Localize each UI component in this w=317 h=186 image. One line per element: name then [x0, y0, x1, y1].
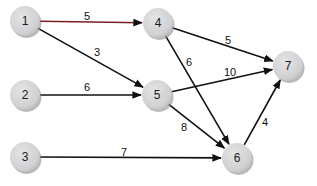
node-1: 1	[10, 6, 42, 38]
edge-6-to-7	[244, 80, 280, 145]
edge-weight-label: 7	[121, 146, 127, 158]
edge-weight-label: 4	[262, 116, 268, 128]
edge-weight-label: 5	[225, 34, 231, 46]
node-label: 4	[155, 16, 162, 30]
edge-3-to-6	[40, 157, 221, 158]
edge-1-to-5	[38, 28, 143, 87]
edge-1-to-4	[40, 21, 142, 23]
edge-weight-label: 8	[181, 121, 187, 133]
node-6: 6	[222, 143, 254, 175]
node-label: 2	[22, 88, 29, 102]
edge-weight-label: 6	[186, 56, 192, 68]
node-label: 7	[285, 59, 292, 73]
node-4: 4	[143, 8, 175, 40]
node-5: 5	[142, 80, 174, 112]
node-2: 2	[10, 80, 42, 112]
edge-weight-label: 6	[84, 81, 90, 93]
network-graph: 5367561084 1234567	[0, 0, 317, 186]
nodes-layer: 1234567	[10, 6, 305, 175]
node-label: 6	[234, 151, 241, 165]
edge-4-to-6	[166, 36, 229, 144]
node-3: 3	[10, 142, 42, 174]
edge-labels-layer: 5367561084	[84, 10, 268, 158]
edge-5-to-6	[169, 104, 225, 148]
node-label: 1	[22, 14, 29, 28]
edge-weight-label: 3	[94, 46, 100, 58]
node-label: 5	[154, 88, 161, 102]
node-7: 7	[273, 51, 305, 83]
node-label: 3	[22, 150, 29, 164]
edge-weight-label: 10	[224, 66, 236, 78]
edge-weight-label: 5	[84, 10, 90, 22]
